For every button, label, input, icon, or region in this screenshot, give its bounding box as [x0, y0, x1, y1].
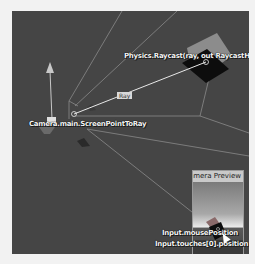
scene-view[interactable]: Physics.Raycast(ray, out RaycastHit hit)…	[12, 11, 249, 254]
up-axis-arrow-icon	[46, 62, 54, 73]
frustum-line	[69, 101, 78, 106]
camera-preview-title: Camera Preview	[193, 171, 243, 182]
frustum-line	[69, 11, 122, 101]
touch-position-label: Input.touches[0].position	[155, 240, 248, 248]
screen-point-label: Camera.main.ScreenPointToRay	[29, 120, 146, 128]
ray-label: Ray	[117, 92, 132, 99]
frustum-line	[87, 129, 249, 156]
camera-base	[39, 127, 55, 134]
raycast-label: Physics.Raycast(ray, out RaycastHit hit)	[124, 52, 249, 60]
frustum-line	[200, 116, 249, 133]
frustum-line	[87, 129, 197, 216]
light-gizmo-icon	[77, 138, 90, 147]
up-axis-line	[50, 71, 52, 119]
